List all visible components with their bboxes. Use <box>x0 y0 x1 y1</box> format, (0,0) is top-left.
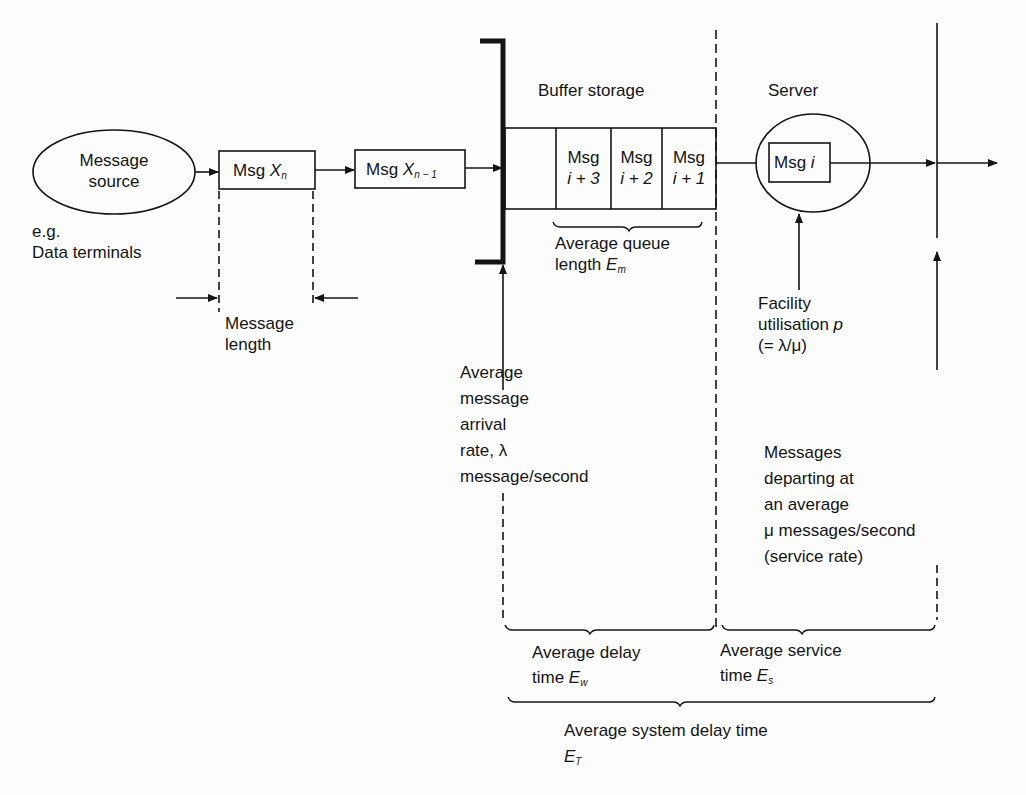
arrival-line3: arrival <box>460 412 589 438</box>
utilisation-var: p <box>834 315 843 334</box>
source-example-label: e.g. Data terminals <box>32 221 142 263</box>
delay-time-label: Average delay time Ew <box>532 640 640 692</box>
system-delay-sub: T <box>575 756 581 767</box>
system-delay-var: E <box>564 747 575 766</box>
utilisation-prefix: utilisation <box>758 315 829 334</box>
departure-line4: μ messages/second <box>764 518 916 544</box>
service-time-sub: s <box>768 675 773 686</box>
queue-length-line2: length Em <box>555 254 670 277</box>
message-length-label: Message length <box>225 313 294 355</box>
source-example-line2: Data terminals <box>32 242 142 263</box>
delay-time-sub: w <box>580 677 587 688</box>
queue-length-var: E <box>606 255 617 274</box>
utilisation-line1: Facility <box>758 293 843 314</box>
buffer-cell-i1-line1: Msg <box>662 147 716 168</box>
delay-time-line2: time Ew <box>532 665 640 692</box>
msg-xn-prefix: Msg <box>233 161 265 180</box>
system-delay-line1: Average system delay time <box>564 718 768 744</box>
server-title: Server <box>768 80 818 101</box>
arrival-line2: message <box>460 386 589 412</box>
buffer-cell-i3-line1: Msg <box>556 147 611 168</box>
buffer-cell-i2-line2: i + 2 <box>611 168 662 189</box>
source-line1: Message <box>52 150 176 171</box>
system-delay-line2: ET <box>564 744 768 772</box>
buffer-cell-i3-line2: i + 3 <box>556 168 611 189</box>
msg-xn1-sub: n − 1 <box>414 169 437 180</box>
msg-xn-sub: n <box>281 170 287 181</box>
utilisation-line2: utilisation p <box>758 314 843 335</box>
service-time-line1: Average service <box>720 638 842 663</box>
buffer-cell-i2-line1: Msg <box>611 147 662 168</box>
departure-line1: Messages <box>764 440 916 466</box>
delay-time-prefix: time <box>532 668 564 687</box>
departure-line2: departing at <box>764 466 916 492</box>
queue-length-sub: m <box>617 264 625 275</box>
buffer-storage-title: Buffer storage <box>538 80 644 101</box>
msg-xn-var: X <box>270 161 281 180</box>
queueing-diagram: Message source e.g. Data terminals Msg X… <box>0 0 1026 795</box>
service-time-line2: time Es <box>720 663 842 690</box>
msg-i-var: i <box>811 153 815 172</box>
queue-length-prefix: length <box>555 255 601 274</box>
departure-rate-label: Messages departing at an average μ messa… <box>764 440 916 570</box>
service-time-label: Average service time Es <box>720 638 842 690</box>
service-time-prefix: time <box>720 666 752 685</box>
message-source-label: Message source <box>52 150 176 192</box>
delay-time-line1: Average delay <box>532 640 640 665</box>
arrival-line1: Average <box>460 360 589 386</box>
message-length-line2: length <box>225 334 294 355</box>
queue-length-line1: Average queue <box>555 233 670 254</box>
msg-i-prefix: Msg <box>774 153 806 172</box>
message-length-line1: Message <box>225 313 294 334</box>
msg-xn-label: Msg Xn <box>233 160 287 183</box>
utilisation-label: Facility utilisation p (= λ/μ) <box>758 293 843 356</box>
departure-line3: an average <box>764 492 916 518</box>
departure-line5: (service rate) <box>764 544 916 570</box>
buffer-cell-i1-line2: i + 1 <box>662 168 716 189</box>
utilisation-line3: (= λ/μ) <box>758 335 843 356</box>
system-delay-label: Average system delay time ET <box>564 718 768 772</box>
msg-xn1-label: Msg Xn − 1 <box>366 159 437 182</box>
arrival-rate-label: Average message arrival rate, λ message/… <box>460 360 589 490</box>
source-example-line1: e.g. <box>32 221 142 242</box>
arrival-line4: rate, λ <box>460 438 589 464</box>
buffer-cell-i2: Msg i + 2 <box>611 147 662 189</box>
buffer-cell-i1: Msg i + 1 <box>662 147 716 189</box>
queue-length-label: Average queue length Em <box>555 233 670 277</box>
arrival-line5: message/second <box>460 464 589 490</box>
source-line2: source <box>52 171 176 192</box>
buffer-cell-i3: Msg i + 3 <box>556 147 611 189</box>
msg-i-label: Msg i <box>774 152 815 173</box>
msg-xn1-prefix: Msg <box>366 160 398 179</box>
msg-xn1-var: X <box>403 160 414 179</box>
service-time-var: E <box>757 666 768 685</box>
delay-time-var: E <box>569 668 580 687</box>
